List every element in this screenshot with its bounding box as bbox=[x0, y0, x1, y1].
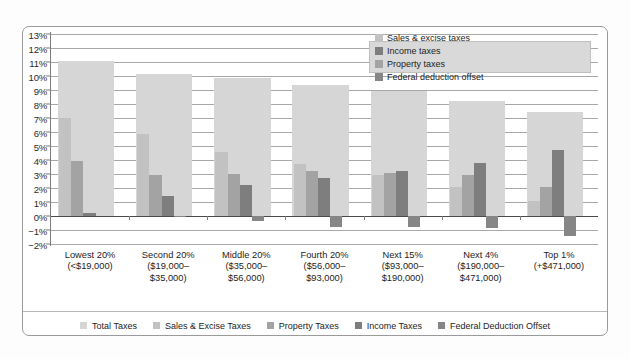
y-axis-tick-labels: 13%12%11%10%9%8%7%6%5%4%3%2%1%0%−1%−2% bbox=[17, 34, 47, 244]
legend-item[interactable]: Total Taxes bbox=[80, 321, 137, 331]
legend-swatch-icon bbox=[375, 60, 383, 68]
legend-swatch-icon bbox=[267, 322, 274, 329]
bar-income-taxes bbox=[83, 213, 95, 216]
y-tick-mark bbox=[46, 90, 50, 91]
y-tick-mark bbox=[46, 188, 50, 189]
legend-item[interactable]: Federal Deduction Offset bbox=[438, 321, 550, 331]
legend-divider bbox=[23, 311, 607, 312]
x-axis-tick bbox=[442, 216, 443, 220]
bar-sales-excise-taxes bbox=[528, 201, 540, 216]
bar-federal-deduction-offset bbox=[252, 216, 264, 221]
x-category-label: Top 1%(+$471,000) bbox=[520, 250, 598, 273]
legend-item[interactable]: Sales & excise taxes bbox=[375, 31, 503, 44]
x-category-name: Lowest 20% bbox=[51, 250, 129, 261]
y-tick-mark bbox=[46, 216, 50, 217]
y-tick-label: 7% bbox=[21, 115, 47, 125]
legend-swatch-icon bbox=[438, 322, 445, 329]
bar-federal-deduction-offset bbox=[486, 216, 498, 228]
y-tick-mark bbox=[46, 34, 50, 35]
legend-item-label: Federal deduction offset bbox=[387, 72, 483, 82]
x-category-range: (+$471,000) bbox=[520, 261, 598, 272]
x-category-label: Lowest 20%(<$19,000) bbox=[51, 250, 129, 273]
y-tick-label: 0% bbox=[21, 213, 47, 223]
y-tick-mark bbox=[46, 132, 50, 133]
x-category-range: (<$19,000) bbox=[51, 261, 129, 272]
bar-income-taxes bbox=[474, 163, 486, 216]
legend-swatch-icon bbox=[355, 322, 362, 329]
bar-sales-excise-taxes bbox=[372, 175, 384, 216]
y-tick-mark bbox=[46, 202, 50, 203]
legend-item-label: Sales & excise taxes bbox=[387, 33, 470, 43]
legend-item-label: Sales & Excise Taxes bbox=[165, 321, 251, 331]
legend-swatch-icon bbox=[375, 34, 383, 42]
legend-item-label: Income Taxes bbox=[367, 321, 422, 331]
y-tick-label: 11% bbox=[21, 59, 47, 69]
x-category-label: Second 20%($19,000–$35,000) bbox=[129, 250, 207, 284]
x-category-range: ($190,000– bbox=[442, 261, 520, 272]
chart-bottom-legend: Total TaxesSales & Excise TaxesProperty … bbox=[23, 316, 607, 335]
bar-sales-excise-taxes bbox=[294, 164, 306, 217]
legend-item-label: Federal Deduction Offset bbox=[450, 321, 550, 331]
y-tick-mark bbox=[46, 118, 50, 119]
bar-income-taxes bbox=[318, 178, 330, 217]
legend-item-label: Income taxes bbox=[387, 46, 441, 56]
y-tick-mark bbox=[46, 244, 50, 245]
y-tick-label: 13% bbox=[21, 31, 47, 41]
bar-federal-deduction-offset bbox=[330, 216, 342, 227]
legend-item[interactable]: Federal deduction offset bbox=[375, 70, 459, 83]
x-category-label: Next 15%($93,000–$190,000) bbox=[364, 250, 442, 284]
bar-property-taxes bbox=[540, 187, 552, 216]
legend-item[interactable]: Income Taxes bbox=[355, 321, 422, 331]
y-tick-label: 8% bbox=[21, 101, 47, 111]
y-tick-label: 10% bbox=[21, 73, 47, 83]
x-axis-category-labels: Lowest 20%(<$19,000)Second 20%($19,000–$… bbox=[51, 250, 598, 294]
bar-property-taxes bbox=[462, 175, 474, 216]
y-tick-label: 4% bbox=[21, 157, 47, 167]
legend-item[interactable]: Property Taxes bbox=[267, 321, 339, 331]
legend-swatch-icon bbox=[80, 322, 87, 329]
y-tick-mark bbox=[46, 62, 50, 63]
legend-item[interactable]: Sales & Excise Taxes bbox=[153, 321, 251, 331]
x-category-label: Fourth 20%($56,000–$93,000) bbox=[285, 250, 363, 284]
chart-screenshot: 13%12%11%10%9%8%7%6%5%4%3%2%1%0%−1%−2% L… bbox=[0, 0, 630, 359]
bar-group bbox=[285, 34, 363, 244]
y-tick-label: 3% bbox=[21, 171, 47, 181]
x-axis-tick bbox=[129, 216, 130, 220]
bar-property-taxes bbox=[71, 161, 83, 216]
y-tick-label: 5% bbox=[21, 143, 47, 153]
legend-item[interactable]: Property taxes bbox=[375, 57, 503, 70]
bar-property-taxes bbox=[228, 174, 240, 216]
legend-item[interactable]: Income taxes bbox=[375, 44, 459, 57]
y-tick-mark bbox=[46, 160, 50, 161]
bar-sales-excise-taxes bbox=[450, 187, 462, 216]
bar-property-taxes bbox=[306, 171, 318, 217]
legend-item-label: Property taxes bbox=[387, 59, 445, 69]
x-axis-tick bbox=[285, 216, 286, 220]
y-tick-mark bbox=[46, 48, 50, 49]
y-tick-label: 9% bbox=[21, 87, 47, 97]
bar-federal-deduction-offset bbox=[408, 216, 420, 227]
x-category-name: Next 4% bbox=[442, 250, 520, 261]
legend-swatch-icon bbox=[375, 73, 383, 81]
x-category-range: $56,000) bbox=[207, 273, 285, 284]
y-tick-label: 12% bbox=[21, 45, 47, 55]
y-tick-label: 6% bbox=[21, 129, 47, 139]
x-category-range: $471,000) bbox=[442, 273, 520, 284]
x-category-label: Middle 20%($35,000–$56,000) bbox=[207, 250, 285, 284]
y-tick-label: −2% bbox=[21, 241, 47, 251]
x-axis-tick bbox=[520, 216, 521, 220]
bar-income-taxes bbox=[162, 196, 174, 216]
legend-item-label: Property Taxes bbox=[279, 321, 339, 331]
y-tick-label: 1% bbox=[21, 199, 47, 209]
y-tick-mark bbox=[46, 230, 50, 231]
x-category-range: $190,000) bbox=[364, 273, 442, 284]
x-category-range: ($93,000– bbox=[364, 261, 442, 272]
bar-income-taxes bbox=[396, 171, 408, 217]
x-category-range: $93,000) bbox=[285, 273, 363, 284]
y-tick-mark bbox=[46, 174, 50, 175]
bar-group bbox=[51, 34, 129, 244]
bar-property-taxes bbox=[149, 175, 161, 216]
y-tick-label: −1% bbox=[21, 227, 47, 237]
x-category-range: $35,000) bbox=[129, 273, 207, 284]
bar-sales-excise-taxes bbox=[59, 118, 71, 216]
